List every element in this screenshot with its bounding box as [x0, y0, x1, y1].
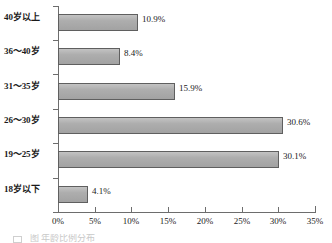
- plot-area: [58, 8, 315, 211]
- bar-40-and-above: [58, 14, 138, 31]
- x-axis-tick-label-35: 35%: [295, 216, 332, 226]
- bar-chart: 40岁以上 36～40岁 31～35岁 26～30岁 19～25岁 18岁以下 …: [0, 0, 332, 243]
- bar-36-40: [58, 48, 120, 65]
- y-axis-label-40-and-above: 40岁以上: [4, 10, 58, 23]
- bar-under-18: [58, 186, 88, 203]
- x-axis-tick: [315, 206, 316, 212]
- x-axis-tick-label-5: 5%: [75, 216, 115, 226]
- bar-19-25: [58, 151, 279, 168]
- y-axis-label-19-25: 19～25岁: [4, 147, 58, 160]
- value-label-40-and-above: 10.9%: [142, 14, 165, 24]
- caption-label: 图 年龄比例分布: [30, 234, 95, 243]
- value-label-26-30: 30.6%: [287, 117, 310, 127]
- x-axis-tick-label-20: 20%: [185, 216, 225, 226]
- y-axis-label-36-40: 36～40岁: [4, 44, 58, 57]
- x-axis-tick-label-30: 30%: [258, 216, 298, 226]
- figure-caption: 图 年龄比例分布: [0, 234, 332, 243]
- x-axis-tick-label-25: 25%: [222, 216, 262, 226]
- x-axis-tick-label-10: 10%: [111, 216, 151, 226]
- y-axis-label-31-35: 31～35岁: [4, 79, 58, 92]
- value-label-under-18: 4.1%: [92, 186, 111, 196]
- caption-marker-icon: [13, 236, 22, 243]
- y-axis-label-26-30: 26～30岁: [4, 113, 58, 126]
- bar-31-35: [58, 83, 175, 100]
- x-axis-tick-group: [58, 212, 316, 213]
- x-axis-tick-label-0: 0%: [38, 216, 78, 226]
- value-label-31-35: 15.9%: [179, 83, 202, 93]
- value-label-19-25: 30.1%: [283, 151, 306, 161]
- y-axis-label-under-18: 18岁以下: [4, 182, 58, 195]
- value-label-36-40: 8.4%: [124, 48, 143, 58]
- bar-26-30: [58, 117, 283, 134]
- x-axis-tick-label-15: 15%: [148, 216, 188, 226]
- y-axis-tick: [53, 6, 58, 7]
